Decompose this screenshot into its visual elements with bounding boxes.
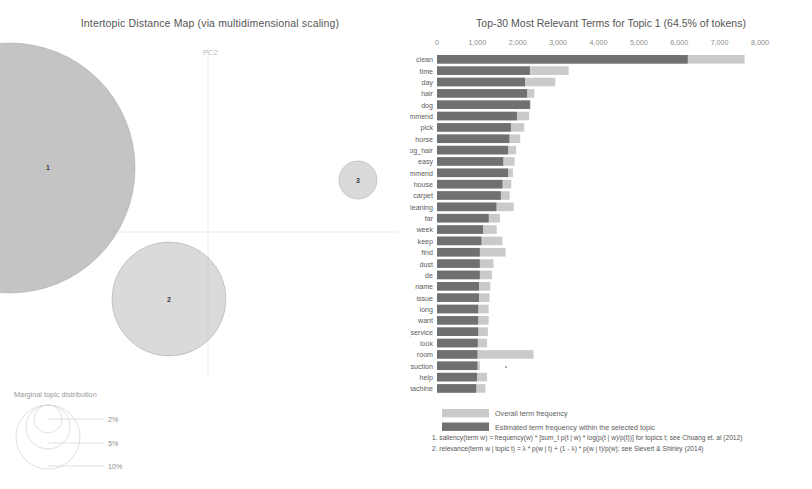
x-tick-label-5: 5,000 [630, 38, 648, 47]
bar-topic-frequency[interactable] [437, 350, 477, 359]
term-label[interactable]: cleaning [410, 204, 433, 212]
bar-topic-frequency[interactable] [437, 134, 509, 143]
term-row[interactable]: carpet [413, 191, 509, 200]
term-label[interactable]: pick [420, 124, 433, 132]
bar-topic-frequency[interactable] [437, 78, 525, 87]
bar-topic-frequency[interactable] [437, 373, 477, 382]
term-row[interactable]: clean [416, 55, 745, 64]
bar-topic-frequency[interactable] [437, 384, 476, 393]
bar-topic-frequency[interactable] [437, 89, 527, 98]
mtd-label-5pct: 5% [108, 439, 119, 448]
bar-topic-frequency[interactable] [437, 271, 480, 280]
term-label[interactable]: issue [416, 295, 433, 303]
term-row[interactable]: horse [415, 134, 520, 143]
mds-y-axis-label: PC2 [203, 48, 218, 57]
term-label[interactable]: room [417, 351, 433, 359]
term-label[interactable]: highly_recommend [410, 170, 433, 178]
term-row[interactable]: recommend [410, 112, 529, 121]
term-row[interactable]: find [422, 248, 506, 257]
term-row[interactable]: dog_hair [410, 146, 516, 155]
term-row[interactable]: de [425, 271, 492, 280]
term-label[interactable]: de [425, 272, 433, 280]
bar-topic-frequency[interactable] [437, 248, 480, 257]
intertopic-distance-map-panel: Intertopic Distance Map (via multidimens… [0, 0, 410, 489]
bar-topic-frequency[interactable] [437, 157, 503, 166]
term-label[interactable]: house [414, 181, 433, 189]
term-row[interactable]: cleaning [410, 203, 514, 212]
term-label[interactable]: suction [411, 363, 434, 371]
bar-topic-frequency[interactable] [437, 316, 478, 325]
bar-topic-frequency[interactable] [437, 146, 508, 155]
term-label[interactable]: recommend [410, 113, 433, 121]
bar-topic-frequency[interactable] [437, 180, 502, 189]
term-label[interactable]: hair [421, 90, 433, 98]
term-label[interactable]: dog_hair [410, 147, 434, 155]
term-row[interactable]: day [422, 78, 556, 87]
bar-topic-frequency[interactable] [437, 282, 479, 291]
bar-topic-frequency[interactable] [437, 293, 479, 302]
term-row[interactable]: time [420, 66, 569, 75]
bar-topic-frequency[interactable] [437, 203, 496, 212]
term-row[interactable]: look [420, 339, 487, 348]
bar-topic-frequency[interactable] [437, 259, 480, 268]
term-label[interactable]: far [425, 215, 434, 223]
bar-topic-frequency[interactable] [437, 100, 530, 109]
term-row[interactable]: dog [421, 100, 531, 109]
term-label[interactable]: name [415, 283, 433, 291]
term-row[interactable]: easy [418, 157, 515, 166]
term-row[interactable]: name [415, 282, 490, 291]
term-row[interactable]: highly_recommend [410, 169, 513, 178]
legend-swatch-overall [442, 409, 489, 417]
bar-topic-frequency[interactable] [437, 339, 478, 348]
term-label[interactable]: dust [420, 261, 433, 269]
term-label[interactable]: look [420, 340, 433, 348]
term-label[interactable]: clean [416, 56, 433, 64]
term-row[interactable]: far [425, 214, 500, 223]
term-label[interactable]: keep [418, 238, 433, 246]
term-label[interactable]: carpet [413, 192, 433, 200]
term-label[interactable]: want [417, 317, 433, 325]
bar-topic-frequency[interactable] [437, 305, 478, 314]
bar-topic-frequency[interactable] [437, 66, 530, 75]
term-label[interactable]: horse [415, 136, 433, 144]
term-row[interactable]: want [417, 316, 489, 325]
term-row[interactable]: pick [420, 123, 524, 132]
term-row[interactable]: suction [411, 361, 480, 370]
bar-topic-frequency[interactable] [437, 361, 477, 370]
term-label[interactable]: customer_service [410, 329, 433, 337]
term-row[interactable]: machine [410, 384, 485, 393]
term-label[interactable]: machine [410, 385, 433, 393]
term-row[interactable]: room [417, 350, 534, 359]
term-label[interactable]: help [420, 374, 433, 382]
term-row[interactable]: week [415, 225, 496, 234]
bar-topic-frequency[interactable] [437, 237, 481, 246]
term-label[interactable]: easy [418, 158, 433, 166]
x-tick-label-1: 1,000 [468, 38, 486, 47]
bar-topic-frequency[interactable] [437, 112, 517, 121]
term-row[interactable]: customer_service [410, 327, 488, 336]
bar-topic-frequency[interactable] [437, 123, 511, 132]
bar-topic-frequency[interactable] [437, 214, 489, 223]
term-label[interactable]: time [420, 68, 433, 76]
bar-topic-frequency[interactable] [437, 225, 483, 234]
term-row[interactable]: help [420, 373, 487, 382]
bar-topic-frequency[interactable] [437, 55, 688, 64]
bar-topic-frequency[interactable] [437, 327, 478, 336]
term-row[interactable]: dust [420, 259, 494, 268]
term-label[interactable]: long [420, 306, 433, 314]
x-tick-label-8: 8,000 [751, 38, 769, 47]
term-label[interactable]: day [422, 79, 434, 87]
term-label[interactable]: dog [421, 102, 433, 110]
term-row[interactable]: issue [416, 293, 489, 302]
marginal-topic-distribution-legend: 2% 5% 10% [16, 405, 123, 471]
term-label[interactable]: find [422, 249, 433, 257]
term-row[interactable]: keep [418, 237, 503, 246]
topic-bubble-1[interactable] [0, 43, 135, 293]
term-label[interactable]: week [415, 226, 433, 234]
barchart-legend: Overall term frequencyEstimated term fre… [442, 409, 656, 432]
bar-topic-frequency[interactable] [437, 191, 501, 200]
term-row[interactable]: house [414, 180, 512, 189]
term-row[interactable]: long [420, 305, 489, 314]
term-row[interactable]: hair [421, 89, 534, 98]
bar-topic-frequency[interactable] [437, 169, 508, 178]
